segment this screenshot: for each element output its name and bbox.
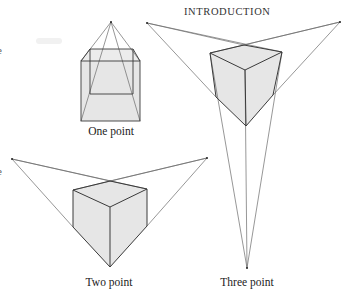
vanishing-point xyxy=(339,21,341,23)
perspective-diagram xyxy=(0,0,344,296)
vanishing-point xyxy=(246,267,248,269)
two-point-figure xyxy=(11,157,208,267)
vanishing-point xyxy=(146,22,148,24)
caption-one-point: One point xyxy=(88,125,134,137)
vanishing-point xyxy=(110,21,112,23)
textbook-page: INTRODUCTION e e xyxy=(0,0,344,296)
vanishing-point xyxy=(206,157,208,159)
one-point-figure xyxy=(81,21,140,121)
caption-three-point: Three point xyxy=(220,276,273,288)
vanishing-point xyxy=(11,158,13,160)
three-point-figure xyxy=(146,21,341,269)
caption-two-point: Two point xyxy=(86,276,133,288)
